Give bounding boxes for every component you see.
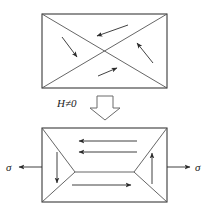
bottom-domain-arrow	[98, 68, 117, 76]
wall-left-upper	[42, 128, 75, 172]
stressed-state-outline	[42, 128, 167, 202]
wall-left-lower	[42, 172, 75, 202]
figure-canvas	[0, 0, 210, 210]
stress-label-left: σ	[6, 162, 11, 173]
wall-right-lower	[134, 172, 167, 202]
left-domain-arrow	[62, 37, 77, 57]
wall-right-upper	[134, 128, 167, 172]
field-condition-label: H≠0	[57, 98, 76, 109]
block-down-arrow-icon	[90, 96, 120, 120]
domain-structure-figure: H≠0 σ σ	[0, 0, 210, 210]
top-domain-arrow	[97, 25, 128, 36]
right-domain-arrow	[137, 43, 153, 63]
initial-state-panel	[42, 14, 167, 88]
stress-label-right: σ	[195, 162, 200, 173]
stressed-state-panel	[19, 128, 190, 202]
